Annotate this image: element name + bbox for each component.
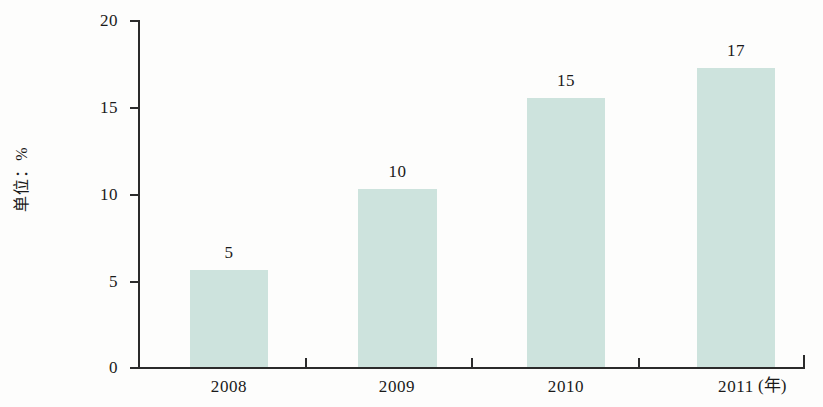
- bar-value-2010: 15: [527, 71, 605, 90]
- x-tick-label-2010: 2010: [521, 377, 611, 397]
- y-tick-10: [130, 194, 139, 196]
- x-tick-label-2008: 2008: [184, 377, 274, 397]
- bar-2008: [190, 270, 268, 367]
- y-tick-15: [130, 107, 139, 109]
- y-tick-label-5: 5: [78, 273, 118, 290]
- y-tick-20: [130, 20, 139, 22]
- bar-value-2009: 10: [358, 162, 437, 181]
- y-tick-label-0: 0: [78, 359, 118, 376]
- y-tick-label-20: 20: [78, 12, 118, 29]
- y-tick-label-15: 15: [78, 99, 118, 116]
- bar-2011: [697, 68, 775, 367]
- x-tick-3: [638, 358, 640, 368]
- y-tick-label-10: 10: [78, 186, 118, 203]
- bar-value-2011: 17: [697, 41, 775, 60]
- x-tick-start: [138, 358, 140, 368]
- x-tick-1: [305, 358, 307, 368]
- x-tick-label-2009: 2009: [352, 377, 442, 397]
- x-tick-end: [803, 355, 805, 368]
- x-tick-2: [471, 358, 473, 368]
- x-axis-unit-label: (年): [758, 375, 823, 397]
- y-tick-5: [130, 281, 139, 283]
- bar-2009: [358, 189, 437, 367]
- bar-2010: [527, 98, 605, 367]
- bar-chart-figure: 单位：% 20 15 10 5 0 5 10 15 17 2008 2009 2…: [0, 0, 823, 407]
- bar-value-2008: 5: [190, 243, 268, 262]
- y-axis-title: 单位：%: [13, 131, 31, 227]
